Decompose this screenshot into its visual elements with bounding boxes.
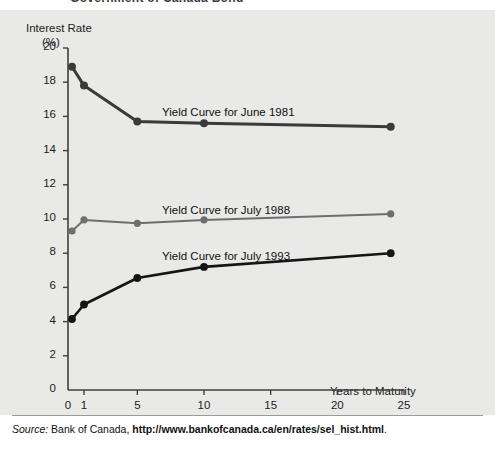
figure-container: Government of Canada Bond Interest Rate …	[0, 0, 495, 453]
series-inline-label: Yield Curve for June 1981	[162, 106, 295, 118]
series-inline-label: Yield Curve for July 1993	[162, 250, 290, 262]
x-axis-tick-label: 25	[389, 399, 419, 411]
source-url-link[interactable]: http://www.bankofcanada.ca/en/rates/sel_…	[132, 423, 384, 435]
series-data-point	[387, 210, 394, 217]
series-inline-label: Yield Curve for July 1988	[162, 204, 290, 216]
footer-divider	[12, 415, 483, 416]
series-data-point	[133, 118, 141, 126]
series-line	[72, 214, 391, 231]
y-axis-tick-label: 16	[30, 108, 56, 120]
y-axis-tick-label: 20	[30, 40, 56, 52]
series-data-point	[200, 119, 208, 127]
source-note: Source: Bank of Canada, http://www.banko…	[12, 423, 387, 435]
series-data-point	[80, 216, 87, 223]
y-axis-tick-label: 10	[30, 211, 56, 223]
series-data-point	[387, 123, 395, 131]
x-axis-tick-label: 5	[122, 399, 152, 411]
source-org: Bank of Canada,	[51, 423, 129, 435]
x-axis-tick-label: 1	[69, 399, 99, 411]
x-axis-tick-label: 15	[256, 399, 286, 411]
series-data-point	[80, 301, 88, 309]
y-axis-tick-label: 0	[30, 382, 56, 394]
y-axis-tick-label: 18	[30, 74, 56, 86]
y-axis-tick-label: 6	[30, 279, 56, 291]
y-axis-tick-label: 14	[30, 143, 56, 155]
source-suffix: .	[384, 423, 387, 435]
series-data-point	[387, 249, 395, 257]
y-axis-tick-label: 12	[30, 177, 56, 189]
series-data-point	[68, 63, 76, 71]
x-axis-tick-label: 10	[189, 399, 219, 411]
series-data-point	[68, 315, 76, 323]
series-data-point	[133, 274, 141, 282]
source-prefix: Source:	[12, 423, 48, 435]
series-line	[72, 253, 391, 319]
series-data-point	[200, 216, 207, 223]
y-axis-tick-label: 4	[30, 314, 56, 326]
chart-title-text: Government of Canada Bond	[70, 0, 244, 5]
y-axis-tick-label: 8	[30, 245, 56, 257]
series-data-point	[134, 220, 141, 227]
y-axis-tick-label: 2	[30, 348, 56, 360]
chart-plot-area: Interest Rate (%) Years to Maturity 0246…	[0, 10, 495, 415]
series-data-point	[80, 82, 88, 90]
series-data-point	[200, 263, 208, 271]
series-data-point	[68, 227, 75, 234]
x-axis-tick-label: 20	[322, 399, 352, 411]
clipped-chart-title: Government of Canada Bond	[0, 0, 495, 10]
